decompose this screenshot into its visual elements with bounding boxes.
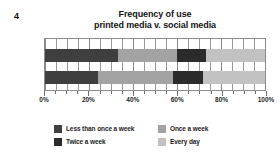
legend-label: Less than once a week <box>66 125 134 132</box>
axis-tick <box>155 91 156 94</box>
question-number: 4 <box>14 11 19 21</box>
axis-tick <box>55 91 56 94</box>
plot-area <box>44 38 266 91</box>
bar-segment <box>203 71 265 84</box>
bar-segment <box>45 71 98 84</box>
chart-legend: Less than once a weekOnce a weekTwice a … <box>54 122 254 148</box>
legend-swatch-icon <box>54 125 62 133</box>
axis-tick <box>122 91 123 94</box>
axis-tick <box>166 91 167 94</box>
legend-item[interactable]: Once a week <box>158 125 254 133</box>
legend-item[interactable]: Every day <box>158 138 254 146</box>
axis-tick <box>111 91 112 94</box>
x-axis-tick-label: 0% <box>39 96 48 103</box>
chart-figure: 4 Frequency of use printed media v. soci… <box>0 0 280 162</box>
axis-tick <box>244 91 245 94</box>
legend-label: Once a week <box>170 125 208 132</box>
axis-tick <box>144 91 145 94</box>
legend-label: Twice a week <box>66 138 106 145</box>
bar-segment <box>206 49 265 62</box>
x-axis-tick-label: 60% <box>171 96 184 103</box>
legend-swatch-icon <box>158 138 166 146</box>
axis-tick <box>255 91 256 94</box>
legend-swatch-icon <box>54 138 62 146</box>
x-axis-tick-label: 40% <box>126 96 139 103</box>
bar-segment <box>98 71 173 84</box>
x-axis-labels: 0%20%40%60%80%100% <box>44 96 266 108</box>
legend-item[interactable]: Twice a week <box>54 138 158 146</box>
x-axis-tick-label: 20% <box>82 96 95 103</box>
legend-row: Twice a weekEvery day <box>54 135 254 148</box>
bar-segment <box>177 49 206 62</box>
bar-social-media <box>45 71 265 84</box>
chart-title-block: Frequency of use printed media v. social… <box>44 9 266 31</box>
chart-subtitle: printed media v. social media <box>44 20 266 31</box>
axis-tick <box>211 91 212 94</box>
bar-printed-media <box>45 49 265 62</box>
legend-swatch-icon <box>158 125 166 133</box>
axis-tick <box>199 91 200 94</box>
axis-tick <box>188 91 189 94</box>
x-axis-tick-label: 80% <box>215 96 228 103</box>
legend-item[interactable]: Less than once a week <box>54 125 158 133</box>
legend-row: Less than once a weekOnce a week <box>54 122 254 135</box>
bar-segment <box>45 49 118 62</box>
axis-tick <box>77 91 78 94</box>
bar-segment <box>173 71 204 84</box>
axis-tick <box>233 91 234 94</box>
axis-tick <box>100 91 101 94</box>
bar-segment <box>118 49 177 62</box>
chart-title: Frequency of use <box>44 9 266 20</box>
legend-label: Every day <box>170 138 200 145</box>
axis-tick <box>66 91 67 94</box>
x-axis-tick-label: 100% <box>258 96 275 103</box>
gridline <box>265 39 266 90</box>
